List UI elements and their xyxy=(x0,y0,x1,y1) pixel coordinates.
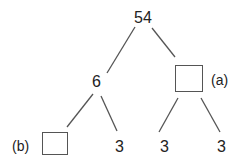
label-a: (a) xyxy=(211,73,228,87)
node-left: 6 xyxy=(92,74,101,90)
leaf-a-3-left: 3 xyxy=(160,139,169,155)
node-root: 54 xyxy=(134,10,152,26)
edge-a-3-left xyxy=(159,98,178,132)
label-b: (b) xyxy=(12,139,29,153)
leaf-left-3: 3 xyxy=(115,139,124,155)
edge-left-3 xyxy=(101,96,117,131)
edge-root-left xyxy=(107,27,135,73)
edge-a-3-right xyxy=(201,98,220,132)
edge-root-right xyxy=(152,28,175,57)
node-a-blank-box[interactable] xyxy=(175,65,203,92)
edge-left-b xyxy=(67,94,93,127)
leaf-a-3-right: 3 xyxy=(217,139,226,155)
node-b-blank-box[interactable] xyxy=(42,132,68,155)
